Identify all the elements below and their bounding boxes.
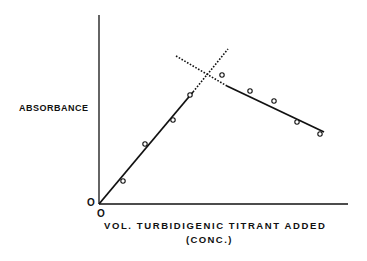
data-points bbox=[121, 73, 322, 183]
data-point bbox=[220, 73, 224, 77]
extrapolation-line bbox=[193, 49, 228, 92]
fit-line bbox=[227, 86, 324, 132]
data-point bbox=[171, 118, 175, 122]
fit-lines bbox=[99, 49, 324, 204]
data-point bbox=[272, 99, 276, 103]
x-origin-label: O bbox=[97, 208, 106, 219]
data-point bbox=[295, 120, 299, 124]
x-axis-sublabel: (CONC.) bbox=[186, 234, 233, 245]
y-origin-label: O bbox=[87, 197, 96, 208]
data-point bbox=[121, 179, 125, 183]
data-point bbox=[143, 142, 147, 146]
data-point bbox=[248, 89, 252, 93]
data-point bbox=[188, 93, 192, 97]
data-point bbox=[318, 132, 322, 136]
fit-line bbox=[99, 92, 193, 204]
y-axis-label: ABSORBANCE bbox=[19, 103, 89, 113]
x-axis-label: VOL. TURBIDIGENIC TITRANT ADDED bbox=[104, 220, 326, 231]
